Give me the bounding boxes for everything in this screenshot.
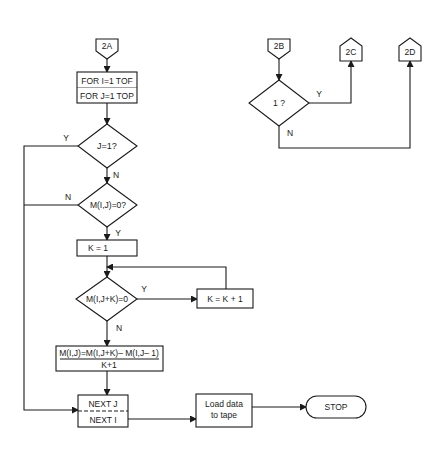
connector-2d-label: 2D [405,47,416,57]
decision-j1-label: J=1? [97,141,117,151]
formula-numerator: M(I,J)=M(I,J+K)– M(I,J– 1) [59,348,159,358]
connector-2a: 2A [96,39,118,59]
flowchart-canvas: 2A FOR I=1 TOF FOR J=1 TOP J=1? Y N M(I,… [0,0,445,469]
edge-label-mijk0-no: N [116,323,122,333]
process-k1-label: K = 1 [88,243,108,253]
edge-label-mij0-yes: Y [115,228,121,238]
decision-mij0-label: M(I,J)=0? [90,200,126,210]
next-loop-box: NEXT J NEXT I [78,395,128,427]
next-i-label: NEXT I [89,415,116,425]
process-kinc-label: K = K + 1 [207,294,243,304]
stop-label: STOP [325,402,348,412]
load-line1: Load data [205,399,243,409]
decision-mij-zero: M(I,J)=0? [78,183,137,227]
decision-1-label: 1 ? [273,98,285,108]
connector-2a-label: 2A [102,41,113,51]
connector-2c-label: 2C [346,47,357,57]
next-j-label: NEXT J [88,399,117,409]
edge-label-d1-yes: Y [316,89,322,99]
process-k-increment: K = K + 1 [197,289,253,308]
connector-2d: 2D [399,38,421,61]
connector-2b-label: 2B [274,41,285,51]
connector-2b: 2B [268,39,290,59]
decision-mijk0-label: M(I,J+K)=0 [86,294,128,304]
process-k-equals-1: K = 1 [77,240,137,256]
edge-label-mijk0-yes: Y [141,284,147,294]
loop-i-label: FOR I=1 TOF [81,76,132,86]
edge-label-mij0-no: N [65,192,71,202]
decision-j-equals-1: J=1? [78,124,137,168]
decision-1: 1 ? [249,80,309,126]
load-data-box: Load data to tape [196,394,252,427]
stop-terminator: STOP [306,396,366,418]
formula-box: M(I,J)=M(I,J+K)– M(I,J– 1) K+1 [56,346,163,371]
loop-start-box: FOR I=1 TOF FOR J=1 TOP [77,72,137,103]
formula-denominator: K+1 [101,360,117,370]
load-line2: to tape [211,410,237,420]
decision-mijk-zero: M(I,J+K)=0 [76,277,137,321]
edge-label-j1-no: N [113,170,119,180]
loop-j-label: FOR J=1 TOP [80,91,134,101]
connector-2c: 2C [340,38,362,61]
edge-label-d1-no: N [287,128,293,138]
loop-back-line [107,267,226,289]
edge-label-j1-yes: Y [63,133,69,143]
